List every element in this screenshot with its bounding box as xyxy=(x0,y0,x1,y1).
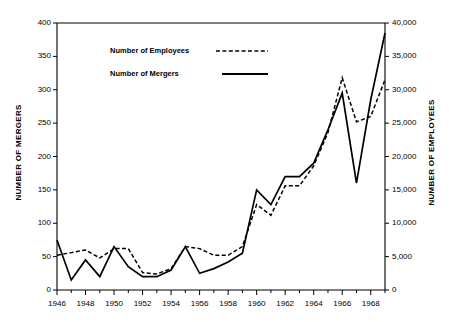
series-line-employees xyxy=(57,78,385,274)
y-tick-label-right: 30,000 xyxy=(392,85,436,94)
series-line-mergers xyxy=(57,33,385,280)
y-tick-label-right: 10,000 xyxy=(392,218,436,227)
y-tick-label-left: 250 xyxy=(13,118,51,127)
x-tick-label: 1956 xyxy=(184,299,216,308)
y-tick-label-right: 5,000 xyxy=(392,252,436,261)
y-tick-label-left: 200 xyxy=(13,152,51,161)
y-tick-label-left: 150 xyxy=(13,185,51,194)
y-tick-label-right: 40,000 xyxy=(392,18,436,27)
y-tick-label-left: 100 xyxy=(13,218,51,227)
y-tick-label-right: 35,000 xyxy=(392,51,436,60)
x-tick-label: 1948 xyxy=(70,299,102,308)
x-tick-label: 1954 xyxy=(155,299,187,308)
legend-label-mergers: Number of Mergers xyxy=(110,69,179,78)
x-tick-label: 1966 xyxy=(326,299,358,308)
y-tick-label-left: 50 xyxy=(13,252,51,261)
y-tick-label-left: 0 xyxy=(13,285,51,294)
x-tick-label: 1962 xyxy=(269,299,301,308)
merger-employee-line-chart: NUMBER OF MERGERS NUMBER OF EMPLOYEES 05… xyxy=(0,0,449,322)
x-tick-label: 1958 xyxy=(212,299,244,308)
y-tick-label-right: 20,000 xyxy=(392,152,436,161)
legend-sample-lines xyxy=(216,51,268,74)
x-tick-label: 1952 xyxy=(127,299,159,308)
x-tick-label: 1960 xyxy=(241,299,273,308)
y-tick-label-right: 25,000 xyxy=(392,118,436,127)
tick-marks xyxy=(53,23,389,295)
plot-area xyxy=(0,0,449,322)
y-tick-label-right: 15,000 xyxy=(392,185,436,194)
x-tick-label: 1950 xyxy=(98,299,130,308)
axis-lines xyxy=(57,23,385,290)
legend-label-employees: Number of Employees xyxy=(110,46,189,55)
y-tick-label-left: 400 xyxy=(13,18,51,27)
y-tick-label-right: 0 xyxy=(392,285,436,294)
y-tick-label-left: 350 xyxy=(13,51,51,60)
x-tick-label: 1968 xyxy=(355,299,387,308)
x-tick-label: 1946 xyxy=(41,299,73,308)
data-series xyxy=(57,33,385,280)
x-tick-label: 1964 xyxy=(298,299,330,308)
y-tick-label-left: 300 xyxy=(13,85,51,94)
